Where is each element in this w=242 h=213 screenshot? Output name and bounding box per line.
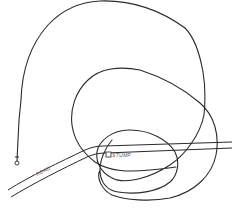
track-diagram: ROAD STUMP: [0, 0, 242, 213]
stump-label: STUMP: [112, 152, 131, 158]
stump-icon: [106, 152, 111, 157]
start-marker-icon: [15, 161, 19, 165]
road-label: ROAD: [35, 164, 52, 176]
